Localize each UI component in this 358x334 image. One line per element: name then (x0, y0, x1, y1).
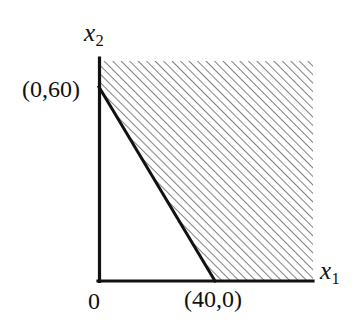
plot-canvas (0, 0, 358, 334)
feasible-region-hatch (99, 61, 313, 281)
feasible-region-figure: x2 x1 (0,60) 0 (40,0) (0, 0, 358, 334)
y-axis-label-base: x (84, 19, 95, 46)
x-axis-label-base: x (320, 257, 331, 284)
x-intercept-point-label: (40,0) (184, 287, 242, 311)
y-axis-label: x2 (84, 20, 104, 49)
origin-label: 0 (88, 289, 100, 313)
y-intercept-point-label: (0,60) (22, 77, 80, 101)
x-axis-label: x1 (320, 258, 340, 287)
x-axis-label-subscript: 1 (331, 269, 340, 288)
y-axis-label-subscript: 2 (95, 31, 104, 50)
